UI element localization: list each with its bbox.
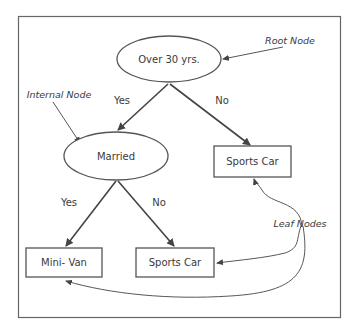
decision-tree-diagram: Over 30 yrs. Root Node Yes No Internal N… <box>0 0 356 334</box>
leaf-label-sports-car-right: Sports Car <box>226 156 279 167</box>
leaf-node-sports-car-right: Sports Car <box>214 146 291 177</box>
leaf-label-sports-car-bottom: Sports Car <box>149 257 202 268</box>
leaf-node-mini-van: Mini- Van <box>26 248 102 277</box>
edge-label-married-yes: Yes <box>60 197 77 208</box>
edge-label-married-no: No <box>152 197 166 208</box>
root-node: Over 30 yrs. <box>117 36 221 82</box>
leaf-label-mini-van: Mini- Van <box>41 257 87 268</box>
internal-node-annotation: Internal Node <box>27 89 92 100</box>
root-annotation-arrow <box>223 47 283 59</box>
root-node-label: Over 30 yrs. <box>138 54 200 65</box>
internal-annotation-arrow <box>53 102 80 143</box>
edge-married-yes <box>66 181 116 246</box>
internal-node: Married <box>64 132 168 180</box>
leaf-annotation-arrow-middle <box>217 226 301 263</box>
edge-root-yes <box>118 84 168 130</box>
edge-root-no <box>170 84 250 145</box>
leaf-nodes-annotation: Leaf Nodes <box>273 218 326 229</box>
leaf-node-sports-car-bottom: Sports Car <box>136 248 214 277</box>
edge-married-no <box>118 181 174 246</box>
edge-label-root-yes: Yes <box>113 95 130 106</box>
edge-label-root-no: No <box>215 95 229 106</box>
root-node-annotation: Root Node <box>265 35 315 46</box>
internal-node-label: Married <box>97 151 135 162</box>
